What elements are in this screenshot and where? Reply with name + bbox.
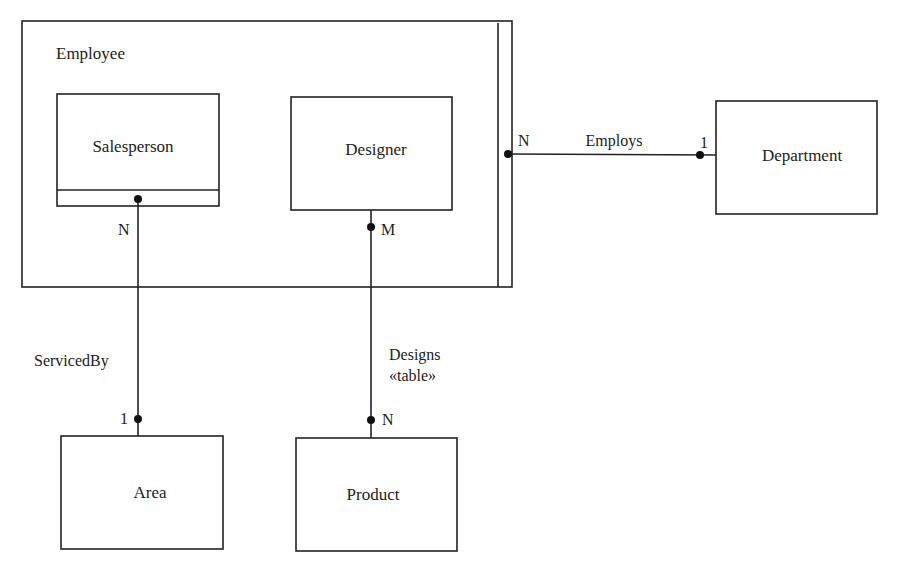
entity-area[interactable]: Area [61, 436, 223, 549]
employee-label: Employee [56, 44, 125, 63]
serviced-by-to-cardinality: 1 [120, 410, 128, 427]
designs-stereotype: «table» [389, 367, 436, 384]
employs-to-dot-icon [696, 151, 704, 159]
employs-from-cardinality: N [518, 132, 530, 149]
designs-to-cardinality: N [382, 411, 394, 428]
employs-line [508, 154, 716, 155]
employs-from-dot-icon [504, 150, 512, 158]
designs-to-dot-icon [367, 416, 375, 424]
designs-label: Designs [389, 346, 441, 364]
relationship-serviced-by[interactable]: ServicedBy N 1 [34, 195, 142, 436]
entity-salesperson[interactable]: Salesperson [57, 94, 219, 206]
employs-label: Employs [586, 132, 643, 150]
designs-from-dot-icon [367, 223, 375, 231]
serviced-by-from-dot-icon [134, 195, 142, 203]
er-diagram: Employee Salesperson Designer Department… [0, 0, 898, 575]
relationship-designs[interactable]: Designs «table» M N [367, 210, 441, 438]
designer-label: Designer [345, 140, 407, 159]
product-label: Product [347, 485, 400, 504]
entity-designer[interactable]: Designer [291, 97, 452, 210]
employs-to-cardinality: 1 [700, 134, 708, 151]
area-label: Area [133, 483, 166, 502]
serviced-by-label: ServicedBy [34, 352, 109, 370]
salesperson-label: Salesperson [92, 137, 174, 156]
entity-product[interactable]: Product [296, 438, 457, 551]
entity-department[interactable]: Department [716, 101, 877, 214]
relationship-employs[interactable]: Employs N 1 [504, 132, 716, 159]
department-label: Department [762, 146, 843, 165]
designs-from-cardinality: M [381, 221, 395, 238]
serviced-by-to-dot-icon [134, 415, 142, 423]
serviced-by-from-cardinality: N [118, 221, 130, 238]
